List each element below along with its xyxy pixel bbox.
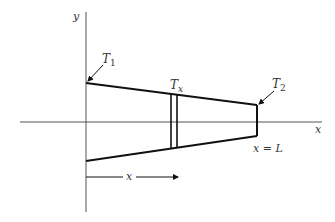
x-axis-label: x [315, 123, 322, 136]
t1-pointer-arrow [88, 65, 103, 81]
tapered-fin-diagram: y x T1 Tx T2 x = L x [0, 0, 335, 222]
distance-label: x [126, 170, 133, 183]
tx-label: Tx [170, 78, 183, 94]
t2-label: T2 [272, 77, 286, 93]
end-position-label: x = L [253, 142, 283, 155]
y-axis-label: y [72, 10, 80, 23]
t2-pointer-arrow [259, 91, 274, 104]
t1-label: T1 [102, 52, 116, 68]
